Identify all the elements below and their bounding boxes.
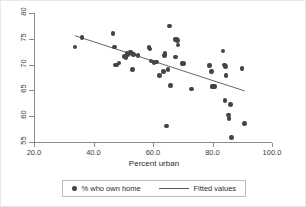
scatter-point <box>111 31 116 36</box>
scatter-point <box>161 69 166 74</box>
x-tick-label: 80.0 <box>205 148 220 157</box>
scatter-point <box>223 64 228 69</box>
x-tick-mark <box>153 143 154 147</box>
scatter-point <box>148 47 153 52</box>
y-tick-label: 55 <box>1 136 27 145</box>
x-tick-mark <box>272 143 273 147</box>
scatter-point <box>164 124 169 129</box>
scatter-point <box>166 67 171 72</box>
scatter-point <box>223 98 228 103</box>
scatter-point <box>152 60 157 65</box>
scatter-point <box>162 53 167 58</box>
y-tick-mark <box>29 65 34 66</box>
scatter-point <box>221 49 226 54</box>
scatter-point <box>163 51 168 56</box>
scatter-point <box>211 84 216 89</box>
scatter-point <box>112 45 117 50</box>
y-tick-label: 65 <box>1 84 27 93</box>
scatter-point <box>136 53 141 58</box>
scatter-point <box>130 67 135 72</box>
scatter-point <box>126 52 131 57</box>
scatter-point <box>175 38 180 43</box>
scatter-point <box>122 54 127 59</box>
scatter-point <box>113 63 118 68</box>
scatter-point <box>149 59 154 64</box>
scatter-point <box>124 55 129 60</box>
scatter-point <box>117 61 122 66</box>
scatter-point <box>209 69 214 74</box>
scatter-point <box>181 61 186 66</box>
scatter-point <box>173 37 178 42</box>
scatter-point <box>227 116 232 121</box>
legend-entry-fit: Fitted values <box>159 184 237 193</box>
y-tick-label: 60 <box>1 110 27 119</box>
y-tick-label: 70 <box>1 59 27 68</box>
regression-line <box>75 36 245 91</box>
scatter-point <box>167 24 172 29</box>
scatter-point <box>212 84 217 89</box>
scatter-point <box>128 50 133 55</box>
scatter-point <box>130 51 135 56</box>
legend-entry-scatter: % who own home <box>72 184 141 193</box>
scatter-point <box>154 60 159 65</box>
x-tick-label: 100.0 <box>263 148 282 157</box>
scatter-point <box>125 51 130 56</box>
scatter-point <box>242 121 247 126</box>
scatter-point <box>131 52 136 57</box>
scatter-plot-figure: 807570656055 20.040.060.080.0100.0 Perce… <box>0 0 306 207</box>
scatter-point <box>189 87 194 92</box>
scatter-point <box>226 113 231 118</box>
x-tick-label: 60.0 <box>146 148 161 157</box>
scatter-point <box>210 84 215 89</box>
scatter-point <box>180 61 185 66</box>
y-tick-label: 75 <box>1 33 27 42</box>
scatter-point <box>240 66 245 71</box>
scatter-point <box>173 55 178 60</box>
scatter-points-layer <box>1 1 306 207</box>
scatter-point <box>114 63 119 68</box>
scatter-point <box>80 35 85 40</box>
scatter-point <box>176 43 181 48</box>
y-tick-mark <box>29 39 34 40</box>
scatter-point <box>175 37 180 42</box>
x-axis-title: Percent urban <box>1 159 306 168</box>
scatter-point <box>129 50 134 55</box>
y-tick-mark <box>29 90 34 91</box>
legend-label-fit: Fitted values <box>194 184 237 193</box>
line-segment-icon <box>159 188 189 189</box>
y-tick-mark <box>29 13 34 14</box>
marker-dot-icon <box>72 186 77 191</box>
scatter-point <box>229 135 234 140</box>
scatter-point <box>222 63 227 68</box>
y-tick-mark <box>29 116 34 117</box>
scatter-point <box>168 83 173 88</box>
y-axis-line <box>34 13 35 143</box>
x-tick-label: 20.0 <box>27 148 42 157</box>
legend-label-scatter: % who own home <box>82 184 141 193</box>
scatter-point <box>157 73 162 78</box>
x-tick-mark <box>94 143 95 147</box>
scatter-point <box>147 45 152 50</box>
fitted-values-line <box>1 1 306 207</box>
scatter-point <box>228 102 233 107</box>
x-tick-mark <box>34 143 35 147</box>
y-tick-label: 80 <box>1 7 27 16</box>
x-tick-label: 40.0 <box>86 148 101 157</box>
chart-legend: % who own home Fitted values <box>62 180 246 197</box>
scatter-point <box>207 63 212 68</box>
scatter-point <box>224 73 229 78</box>
x-tick-mark <box>213 143 214 147</box>
scatter-point <box>73 45 78 50</box>
